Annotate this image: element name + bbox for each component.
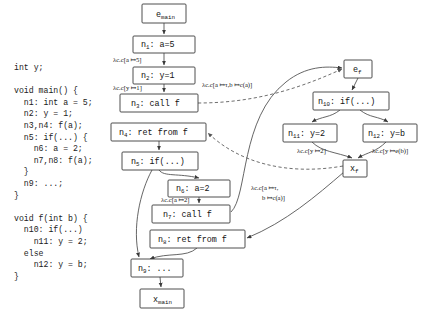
node-n4[interactable]: n4: ret from f <box>111 123 206 141</box>
node-n7[interactable]: n7: call f <box>152 205 230 223</box>
node-n2[interactable]: n2: y=1 <box>133 67 195 84</box>
node-n12[interactable]: n12: y=b <box>363 124 417 142</box>
node-n1[interactable]: n1: a=5 <box>133 36 195 53</box>
node-n5[interactable]: n5: if(...) <box>122 152 198 170</box>
node-e-main[interactable]: emain <box>142 4 186 23</box>
edge-n8-n9 <box>150 248 197 259</box>
control-flow-graph: emain n1: a=5 n2: y=1 n3: call f n4: ret… <box>0 0 436 322</box>
node-x-f[interactable]: xf <box>343 160 367 177</box>
node-e-f[interactable]: ef <box>344 60 372 78</box>
edge-label-lambda-call-n7-line1: λc.c[a ↦τ, <box>251 184 279 192</box>
node-x-main[interactable]: xmain <box>140 289 184 308</box>
edge-label-lambda-a-to-5: λc.c[a ↦5] <box>113 56 142 64</box>
svg-text:n5: if(...): n5: if(...) <box>131 157 185 168</box>
edge-n5-n6 <box>159 170 199 178</box>
edge-n10-n12 <box>360 110 388 122</box>
edge-ef-n10 <box>352 78 358 90</box>
edge-label-lambda-y-to-1: λc.c[y ↦1] <box>113 84 142 92</box>
edge-n10-n11 <box>312 110 340 122</box>
edge-label-lambda-a-to-2: λc.c[a ↦2] <box>161 196 190 204</box>
edge-n9-xmain <box>160 277 161 287</box>
edge-label-lambda-call-n7-line2: b ↦c(a)] <box>262 194 285 202</box>
svg-text:n4: ret from f: n4: ret from f <box>119 128 188 139</box>
node-n6[interactable]: n6: a=2 <box>168 180 230 197</box>
node-n3[interactable]: n3: call f <box>120 94 198 112</box>
node-n9[interactable]: n9: ... <box>131 259 183 277</box>
edge-label-lambda-y-to-eb: λc.c[y ↦e(b)] <box>372 147 408 155</box>
node-n10[interactable]: n10: if(...) <box>313 92 389 110</box>
edge-label-lambda-call-n3: λc.c[a ↦τ,b ↦c(a)] <box>202 81 252 89</box>
edge-label-lambda-y-to-2: λc.c[y ↦2] <box>297 147 326 155</box>
edge-return-xf-n8 <box>247 172 344 238</box>
node-n11[interactable]: n11: y=2 <box>283 124 337 142</box>
figure-canvas: int y; void main() { n1: int a = 5; n2: … <box>0 0 436 322</box>
edge-group-f <box>312 78 388 158</box>
node-n8[interactable]: n8: ret from f <box>150 230 245 248</box>
svg-text:n8: ret from f: n8: ret from f <box>158 235 227 246</box>
node-group: emain n1: a=5 n2: y=1 n3: call f n4: ret… <box>111 4 417 308</box>
